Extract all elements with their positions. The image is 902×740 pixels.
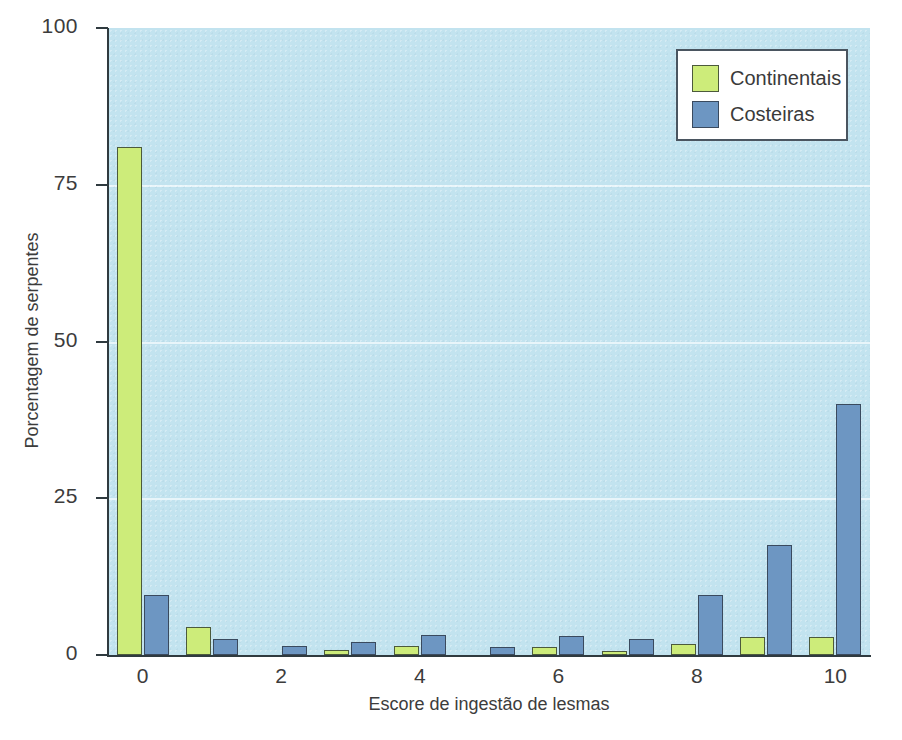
bar-costeiras-5 (490, 647, 515, 655)
legend-label-costeiras: Costeiras (730, 103, 814, 126)
x-tick-label-2: 2 (256, 664, 306, 688)
y-tick-0 (96, 654, 108, 656)
legend: Continentais Costeiras (676, 49, 848, 141)
bar-costeiras-2 (282, 646, 307, 655)
y-tick-75 (96, 184, 108, 186)
bar-costeiras-10 (836, 404, 861, 655)
y-axis-ticks: 0255075100 (0, 0, 108, 740)
legend-item-continentais: Continentais (692, 60, 846, 96)
bar-costeiras-4 (421, 635, 446, 655)
bar-continentais-0 (117, 147, 142, 655)
bar-costeiras-7 (629, 639, 654, 655)
y-tick-label-100: 100 (18, 14, 78, 38)
y-tick-25 (96, 497, 108, 499)
bar-continentais-6 (532, 647, 557, 655)
x-tick-label-6: 6 (533, 664, 583, 688)
x-axis-title: Escore de ingestão de lesmas (108, 694, 870, 715)
x-axis-line (107, 655, 871, 657)
legend-label-continentais: Continentais (730, 67, 841, 90)
bar-chart-figure: 0255075100 0246810 Porcentagem de serpen… (0, 0, 902, 740)
bar-costeiras-9 (767, 545, 792, 655)
blue-swatch-icon (692, 101, 719, 128)
x-tick-label-10: 10 (810, 664, 860, 688)
y-tick-100 (96, 27, 108, 29)
x-tick-label-8: 8 (672, 664, 722, 688)
x-tick-label-4: 4 (395, 664, 445, 688)
bar-costeiras-1 (213, 639, 238, 655)
bar-costeiras-6 (559, 636, 584, 655)
bar-costeiras-3 (351, 642, 376, 655)
bar-continentais-10 (809, 637, 834, 655)
green-swatch-icon (692, 65, 719, 92)
bar-costeiras-8 (698, 595, 723, 655)
bar-continentais-4 (394, 646, 419, 655)
y-tick-50 (96, 341, 108, 343)
bar-costeiras-0 (144, 595, 169, 655)
bar-continentais-9 (740, 637, 765, 655)
bar-continentais-1 (186, 627, 211, 655)
x-tick-label-0: 0 (118, 664, 168, 688)
y-tick-label-0: 0 (18, 641, 78, 665)
legend-item-costeiras: Costeiras (692, 96, 846, 132)
y-axis-title: Porcentagem de serpentes (22, 141, 43, 541)
bar-continentais-8 (671, 644, 696, 655)
